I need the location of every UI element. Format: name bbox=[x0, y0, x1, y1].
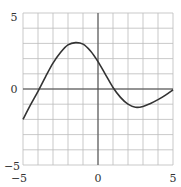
x-tick-label-right: 5 bbox=[170, 172, 177, 185]
function-graph: 5 0 −5 −5 0 5 bbox=[0, 0, 181, 187]
y-tick-label-zero: 0 bbox=[11, 83, 18, 96]
y-tick-label-top: 5 bbox=[11, 11, 18, 24]
x-tick-label-left: −5 bbox=[11, 172, 27, 185]
axes bbox=[23, 13, 173, 165]
x-tick-label-zero: 0 bbox=[95, 172, 102, 185]
